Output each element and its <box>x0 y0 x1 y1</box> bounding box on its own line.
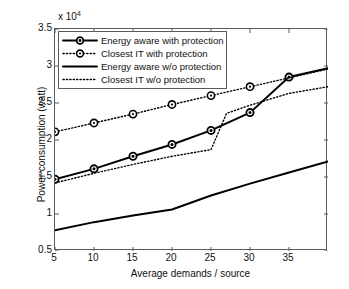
y-axis-tick-label: 3.5 <box>10 23 52 33</box>
series-marker-dot <box>210 129 213 132</box>
series-marker-dot <box>93 122 95 124</box>
x-axis-tick-label: 30 <box>234 253 264 263</box>
legend-swatch <box>61 60 99 73</box>
series-marker-dot <box>132 113 134 115</box>
legend-label: Energy aware w/o protection <box>99 61 221 73</box>
legend-swatch <box>61 73 99 86</box>
y-axis-tick-label: 1.5 <box>10 171 52 181</box>
series-marker-dot <box>132 155 135 158</box>
legend-label: Energy aware with protection <box>99 35 224 47</box>
chart-legend: Energy aware with protectionClosest IT w… <box>58 31 227 89</box>
legend-item[interactable]: Closest IT w/o protection <box>61 73 223 86</box>
x-axis-tick-label: 15 <box>117 253 147 263</box>
series-marker-dot <box>249 111 252 114</box>
y-axis-tick-label: 2.5 <box>10 97 52 107</box>
x-axis-tick-label: 5 <box>39 253 69 263</box>
y-axis-exponent-power: 4 <box>77 10 81 17</box>
series-marker-dot <box>171 103 173 105</box>
chart-figure: x 104 Power consumption (watt) Average d… <box>0 0 349 289</box>
legend-item[interactable]: Energy aware w/o protection <box>61 60 223 73</box>
legend-swatch <box>61 34 99 47</box>
y-axis-exponent-base: x 10 <box>58 11 77 22</box>
y-axis-tick-label: 3 <box>10 60 52 70</box>
x-axis-tick-label: 25 <box>195 253 225 263</box>
series-marker-dot <box>249 86 251 88</box>
legend-marker-dot <box>79 39 82 42</box>
y-axis-tick-label: 2 <box>10 134 52 144</box>
legend-item[interactable]: Energy aware with protection <box>61 34 223 47</box>
x-axis-tick-label: 10 <box>78 253 108 263</box>
legend-label: Closest IT w/o protection <box>99 74 205 86</box>
legend-marker-dot <box>79 52 81 54</box>
y-axis-exponent-label: x 104 <box>58 8 81 22</box>
y-axis-tick-label: 1 <box>10 208 52 218</box>
series-marker-dot <box>210 95 212 97</box>
legend-item[interactable]: Closest IT with protection <box>61 47 223 60</box>
x-axis-tick-label: 35 <box>273 253 303 263</box>
legend-label: Closest IT with protection <box>99 48 207 60</box>
series-marker-dot <box>93 167 96 170</box>
legend-swatch <box>61 47 99 60</box>
x-axis-tick-label: 20 <box>156 253 186 263</box>
x-axis-title: Average demands / source <box>54 268 327 279</box>
series-marker-dot <box>171 143 174 146</box>
